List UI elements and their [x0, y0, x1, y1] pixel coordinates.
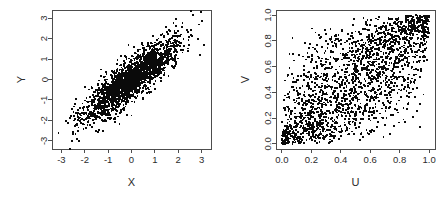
y-tick-label: -3	[39, 137, 50, 145]
x-tick-label: -1	[104, 154, 112, 165]
points-layer	[58, 10, 205, 149]
y-tick-label: 0.8	[263, 34, 274, 47]
x-tick-label: 1.0	[423, 154, 436, 165]
figure-canvas: -3-2-10123-3-2-10123XY 0.00.20.40.60.81.…	[0, 0, 448, 198]
y-axis-title: Y	[15, 75, 27, 83]
x-tick-label: 1	[152, 154, 157, 165]
x-tick-label: -3	[57, 154, 65, 165]
y-tick-label: 1	[39, 56, 50, 61]
y-tick-label: 3	[39, 16, 50, 21]
x-tick-label: 0.8	[393, 154, 406, 165]
x-tick-label: -2	[81, 154, 89, 165]
x-axis-title: U	[352, 176, 360, 188]
x-tick-label: 2	[176, 154, 181, 165]
y-tick-label: 0	[39, 77, 50, 82]
y-tick-label: 0.4	[263, 86, 274, 99]
y-tick-label: 1.0	[263, 9, 274, 22]
x-tick-label: 0.0	[275, 154, 288, 165]
y-tick-label: 0.2	[263, 112, 274, 125]
panel-normal-margins: -3-2-10123-3-2-10123XY	[0, 0, 224, 198]
y-tick-label: 0.6	[263, 60, 274, 73]
panel-uniform-margins: 0.00.20.40.60.81.00.00.20.40.60.81.0UV	[224, 0, 448, 198]
x-tick-label: 3	[199, 154, 204, 165]
y-tick-label: 2	[39, 36, 50, 41]
y-axis: -3-2-10123	[39, 16, 53, 146]
x-tick-label: 0.2	[305, 154, 318, 165]
scatter-plot-uv[interactable]: 0.00.20.40.60.81.00.00.20.40.60.81.0UV	[224, 0, 448, 198]
scatter-plot-xy[interactable]: -3-2-10123-3-2-10123XY	[0, 0, 224, 198]
x-tick-label: 0	[129, 154, 134, 165]
y-axis-title: V	[239, 75, 251, 83]
x-axis-title: X	[128, 176, 136, 188]
y-tick-label: 0.0	[263, 137, 274, 150]
x-axis: -3-2-10123	[57, 149, 204, 165]
y-axis: 0.00.20.40.60.81.0	[263, 9, 277, 151]
x-axis: 0.00.20.40.60.81.0	[275, 149, 435, 165]
x-tick-label: 0.4	[334, 154, 347, 165]
x-tick-label: 0.6	[364, 154, 377, 165]
points-layer	[281, 14, 430, 144]
y-tick-label: -2	[39, 116, 50, 124]
y-tick-label: -1	[39, 96, 50, 104]
